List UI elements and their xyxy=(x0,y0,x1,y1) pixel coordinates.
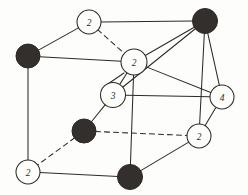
crystal-structure-figure: 223422 xyxy=(0,0,248,195)
atom-bottom-front-left-2: 2 xyxy=(16,160,40,184)
open-atom-circle xyxy=(77,10,101,34)
bond-top-back-edge xyxy=(101,21,194,22)
filled-atom-circle xyxy=(118,165,143,190)
open-atom-circle xyxy=(210,85,234,109)
filled-atom-circle xyxy=(193,9,218,34)
bond-lower-center-vertical xyxy=(91,104,105,122)
atom-center-2: 2 xyxy=(121,49,147,75)
atom-center-lower-3: 3 xyxy=(101,83,126,108)
filled-atom-circle xyxy=(72,119,96,143)
filled-atom-circle xyxy=(16,44,40,68)
open-atom-circle xyxy=(187,124,211,148)
bond-right-vertical-edge xyxy=(208,33,220,86)
bond-bottom-right-edge xyxy=(140,142,189,171)
atom-bottom-back-left-filled xyxy=(72,119,96,143)
bond-bottom-back-edge xyxy=(95,132,187,136)
bond-right4-to-bottomright xyxy=(205,107,216,126)
open-atom-circle xyxy=(121,49,147,75)
bond-center-to-topright-a xyxy=(145,27,195,56)
bond-top-vertical-hidden xyxy=(98,30,125,54)
atom-bottom-front-right-filled xyxy=(118,165,143,190)
bond-upper-front-edge xyxy=(39,57,121,62)
atom-top-back-right-filled xyxy=(193,9,218,34)
bond-lower-center-horizontal xyxy=(125,95,211,97)
atom-right-4: 4 xyxy=(210,85,234,109)
bond-bottom-left-hidden xyxy=(37,138,74,165)
open-atom-circle xyxy=(101,83,126,108)
crystal-lattice-svg: 223422 xyxy=(0,0,248,195)
open-atom-circle xyxy=(16,160,40,184)
atom-bottom-back-right-2: 2 xyxy=(187,124,211,148)
bond-topright-to-bottomright xyxy=(200,33,205,125)
atom-top-back-left-2: 2 xyxy=(77,10,101,34)
bond-top-left-edge xyxy=(38,28,79,51)
bond-center-vertical-down xyxy=(130,74,133,165)
atom-top-front-left-filled xyxy=(16,44,40,68)
bond-center-pair-left xyxy=(119,73,127,85)
bond-bottom-front-edge xyxy=(39,173,118,177)
